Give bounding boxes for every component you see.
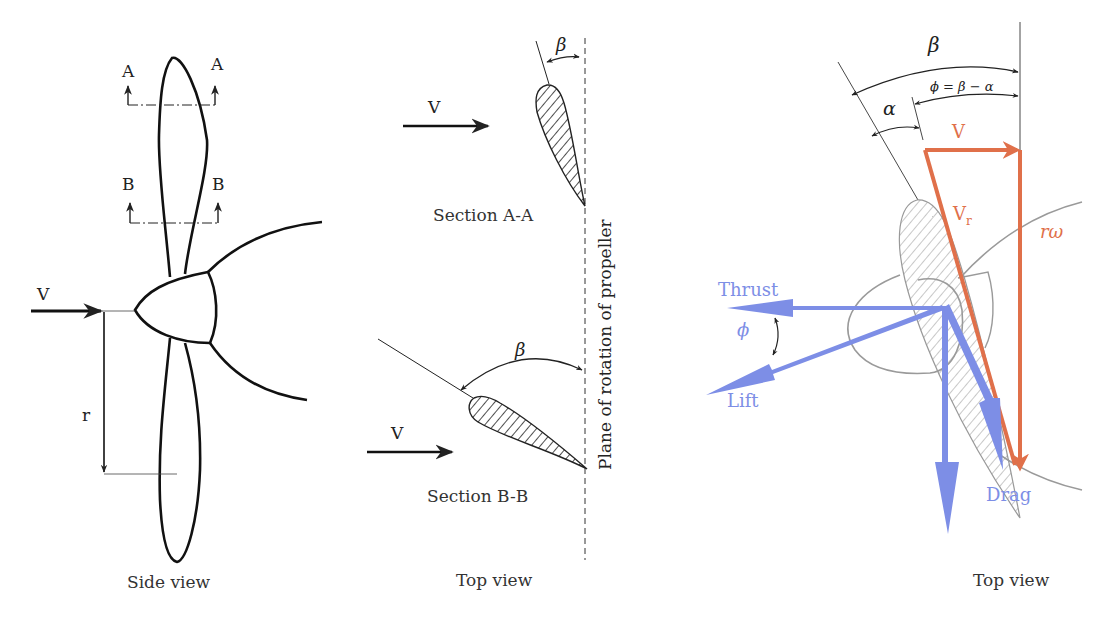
section-top-view-panel: Plane of rotation of propeller β V Secti… — [367, 34, 615, 590]
top-view-caption-middle: Top view — [456, 570, 533, 590]
plane-of-rotation-label: Plane of rotation of propeller — [595, 218, 615, 470]
velocity-a-label: V — [427, 97, 441, 117]
chord-line-a — [536, 41, 549, 84]
phi-label: ϕ — [737, 319, 749, 340]
relative-velocity-symbol: V — [952, 203, 967, 224]
section-b-caption: Section B-B — [427, 486, 528, 506]
beta-arc-b — [461, 359, 582, 390]
side-view-caption: Side view — [127, 572, 211, 592]
beta-label: β — [927, 33, 940, 57]
beta-arc-a — [547, 57, 579, 62]
blade-section-hatched — [899, 200, 1020, 518]
lift-label: Lift — [727, 390, 759, 411]
thrust-label: Thrust — [718, 279, 779, 300]
velocity-label: V — [36, 284, 50, 304]
section-a-left-label: A — [121, 61, 135, 81]
chord-line-b — [378, 339, 473, 398]
beta-b-label: β — [514, 339, 525, 360]
section-b-right-label: B — [212, 174, 225, 194]
section-a-right-label: A — [210, 54, 224, 74]
force-vectors — [706, 299, 1003, 534]
relative-velocity-label: Vr — [952, 203, 972, 228]
propeller-blade-third — [208, 222, 322, 400]
section-b-left-label: B — [122, 174, 135, 194]
airfoil-section-b — [469, 397, 587, 469]
propeller-blade-upper — [159, 58, 207, 277]
airfoil-section-a — [536, 85, 585, 206]
phi-angle-arc — [773, 318, 778, 355]
relative-velocity-subscript: r — [966, 214, 972, 228]
velocity-label-orange: V — [951, 121, 966, 142]
chord-reference-line — [838, 62, 918, 200]
top-view-caption-right: Top view — [973, 570, 1050, 590]
velocity-b-label: V — [390, 423, 404, 443]
section-a-caption: Section A-A — [433, 205, 534, 225]
beta-a-label: β — [555, 34, 566, 55]
force-diagram-panel: β ϕ = β − α α V rω Vr Thrust Lift Drag — [706, 22, 1082, 590]
rotational-velocity-label: rω — [1040, 221, 1064, 242]
drag-label: Drag — [986, 484, 1031, 505]
phi-equation-label: ϕ = β − α — [930, 79, 994, 94]
alpha-arc — [872, 127, 919, 136]
phi-arc — [915, 94, 1018, 104]
side-view-panel: A A B B V r Side view — [31, 54, 322, 592]
propeller-hub — [135, 272, 216, 343]
radius-label: r — [82, 405, 91, 425]
propeller-blade-lower — [160, 338, 201, 562]
propeller-diagram-figure: A A B B V r Side view Plane of rotation … — [0, 0, 1116, 623]
alpha-label: α — [883, 97, 896, 119]
